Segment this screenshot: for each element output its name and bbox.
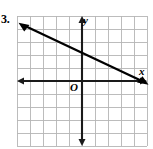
origin-label: O — [70, 82, 78, 93]
x-axis-label: x — [139, 66, 145, 77]
graph-figure: 3. — [0, 0, 153, 149]
problem-number-label: 3. — [1, 12, 10, 26]
line-segment — [23, 25, 144, 82]
y-axis-label: y — [83, 15, 88, 26]
plotted-line — [17, 16, 147, 146]
coordinate-plane: y x O — [17, 16, 147, 146]
